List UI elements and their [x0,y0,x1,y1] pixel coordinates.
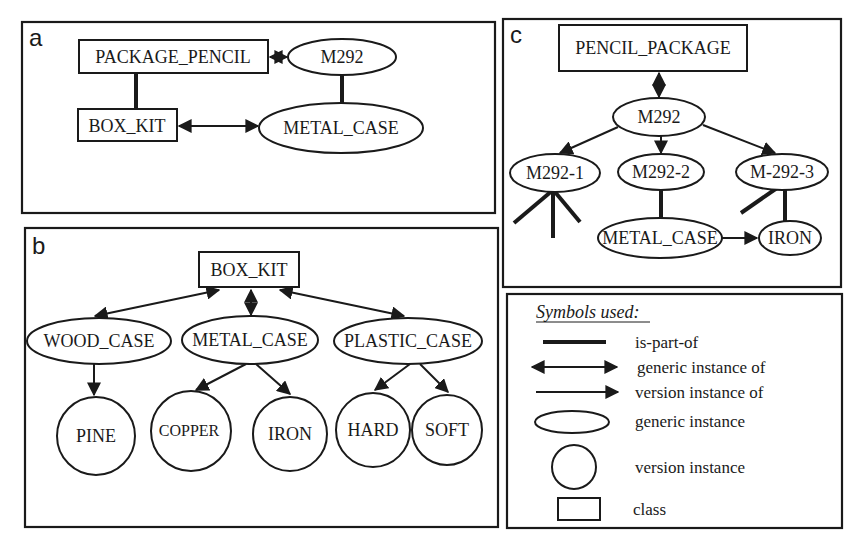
node-m292: M292 [288,39,396,75]
rectangle-symbol [558,498,600,520]
node-label: METAL_CASE [602,228,718,248]
legend-label: class [633,500,666,519]
node-label: WOOD_CASE [44,331,155,351]
node-label: PLASTIC_CASE [344,331,472,351]
legend-label: version instance [635,458,745,477]
legend-label: generic instance of [637,358,766,377]
node-pine: PINE [57,397,135,475]
legend-label: generic instance [635,412,745,431]
circle-symbol [552,445,596,489]
legend-label: version instance of [635,383,764,402]
legend: Symbols used: is-part-of generic instanc… [507,294,842,528]
node-label: M292-1 [526,163,584,183]
edge-version-metalcase-iron [256,364,290,394]
node-package-pencil: PACKAGE_PENCIL [79,40,268,73]
node-label: M-292-3 [750,162,814,182]
node-label: PINE [76,426,116,446]
node-iron: IRON [253,397,327,471]
node-m292: M292 [613,98,705,136]
legend-item-is-part-of: is-part-of [543,333,699,352]
node-m292-2: M292-2 [618,154,704,190]
node-soft: SOFT [412,395,482,465]
node-pencil-package: PENCIL_PACKAGE [559,25,747,71]
edge-version-m292-m2923 [703,125,775,153]
panel-a-letter: a [29,24,43,51]
edge-version-metalcase-copper [196,364,246,390]
node-hard: HARD [336,393,410,467]
node-label: IRON [268,424,312,444]
panel-c-letter: c [510,21,522,48]
edge-version-plasticcase-hard [375,364,410,390]
node-label: COPPER [159,422,220,439]
node-label: HARD [347,420,398,440]
node-iron: IRON [759,221,821,255]
node-wood-case: WOOD_CASE [27,318,171,364]
node-label: PACKAGE_PENCIL [95,47,250,67]
legend-item-generic-instance-of: generic instance of [532,358,766,377]
node-box-kit: BOX_KIT [199,252,299,287]
node-plastic-case: PLASTIC_CASE [334,318,482,364]
node-label: M292-2 [632,162,690,182]
legend-title: Symbols used: [536,302,639,322]
node-copper: COPPER [151,391,231,471]
edge-version-plasticcase-soft [420,364,448,392]
node-label: METAL_CASE [192,330,308,350]
node-box-kit: BOX_KIT [78,109,177,141]
node-label: BOX_KIT [89,116,166,136]
node-metal-case: METAL_CASE [598,218,722,258]
node-label: BOX_KIT [211,260,288,280]
edge-version-m292-m2921 [560,127,618,153]
legend-item-generic-instance: generic instance [535,411,745,433]
edge-partof-m2921-stub-right [555,192,580,222]
legend-item-class: class [558,498,666,520]
panel-b-letter: b [32,232,45,259]
edge-partof-m2923-stub [741,188,777,213]
ontology-diagram: a PACKAGE_PENCIL M292 BOX_KIT METAL_CASE… [0,0,856,544]
ellipse-symbol [535,411,609,433]
node-m292-1: M292-1 [510,154,600,192]
node-label: IRON [768,228,812,248]
node-metal-case: METAL_CASE [259,103,423,153]
node-label: PENCIL_PACKAGE [575,38,730,58]
panel-b: b BOX_KIT WOOD_CASE METAL_CASE PLASTIC_C… [25,228,498,527]
panel-a: a PACKAGE_PENCIL M292 BOX_KIT METAL_CASE [22,22,495,213]
legend-label: is-part-of [635,333,699,352]
node-label: M292 [320,47,363,67]
legend-item-version-instance: version instance [552,445,745,489]
node-label: METAL_CASE [283,118,399,138]
edge-generic-boxkit-woodcase [95,290,219,316]
legend-item-version-instance-of: version instance of [536,383,764,402]
panel-c: c PENCIL_PACKAGE M292 M292-1 M292-2 [503,19,841,287]
node-metal-case: METAL_CASE [182,316,318,364]
node-label: SOFT [425,420,469,440]
edge-generic-boxkit-plasticcase [280,290,404,316]
edge-partof-m2921-stub-left [514,190,553,223]
node-m292-3: M-292-3 [736,154,828,190]
node-label: M292 [637,107,680,127]
